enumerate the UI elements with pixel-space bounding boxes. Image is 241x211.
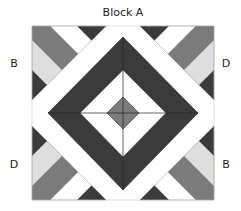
quilt-block-diagram (0, 0, 241, 211)
